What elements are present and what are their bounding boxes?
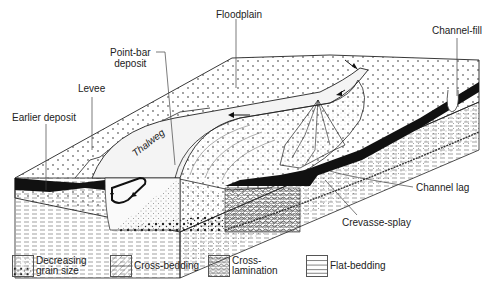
cross-lamination-swatch-icon (208, 255, 230, 277)
legend-item-cross-lamination: Cross- lamination (208, 255, 278, 277)
fluvial-block-diagram (0, 0, 499, 292)
legend-label-decreasing-grain-size: Decreasing grain size (36, 256, 87, 276)
legend-item-cross-bedding: Cross-bedding (110, 255, 199, 277)
legend-item-flat-bedding: Flat-bedding (306, 255, 386, 277)
decreasing-grain-size-swatch-icon (12, 255, 34, 277)
legend-label-cross-lamination: Cross- lamination (232, 256, 278, 276)
label-point-bar-deposit: Point-bar deposit (110, 47, 151, 69)
label-crevasse-splay: Crevasse-splay (342, 217, 411, 228)
label-point-bar-line1: Point-bar (110, 47, 151, 58)
label-point-bar-line2: deposit (114, 58, 146, 69)
cross-bedding-swatch-icon (110, 255, 132, 277)
label-levee: Levee (78, 83, 105, 94)
legend-label-cross-bedding: Cross-bedding (134, 261, 199, 271)
label-channel-lag: Channel lag (416, 182, 469, 193)
legend-label-flat-bedding: Flat-bedding (330, 261, 386, 271)
label-channel-fill: Channel-fill (432, 25, 482, 36)
label-floodplain: Floodplain (216, 9, 262, 20)
label-earlier-deposit: Earlier deposit (12, 112, 76, 123)
legend-item-decreasing-grain-size: Decreasing grain size (12, 255, 87, 277)
flat-bedding-swatch-icon (306, 255, 328, 277)
